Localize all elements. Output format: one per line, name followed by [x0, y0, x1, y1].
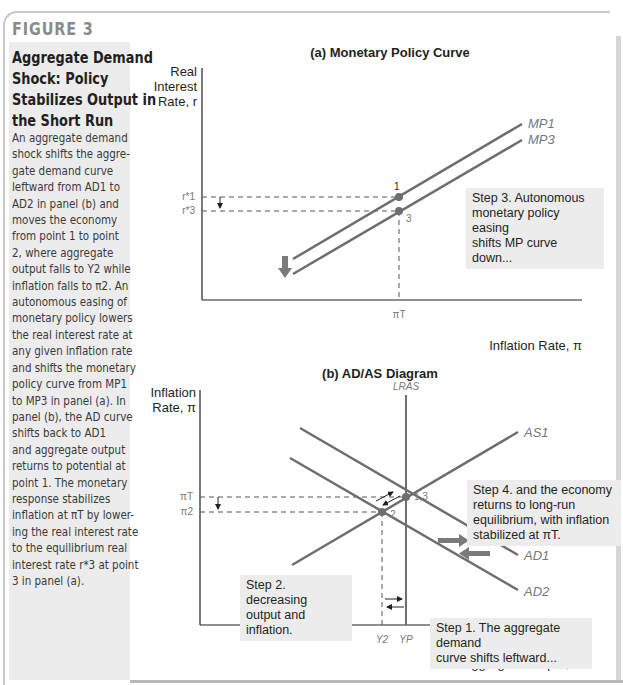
panel-a-xtick-piT: πT [392, 309, 405, 320]
svg-text:Rate, π: Rate, π [152, 400, 196, 415]
mp3-label: MP3 [528, 132, 556, 147]
svg-text:Inflation: Inflation [150, 385, 196, 400]
svg-text:Interest: Interest [154, 79, 198, 94]
step2-annotation: Step 2. decreasing output and inflation. [240, 575, 352, 641]
panel-a-ylabel: Real Interest Rate, r [154, 64, 198, 109]
svg-text:Real: Real [170, 64, 197, 79]
panel-b-title: (b) AD/AS Diagram [322, 366, 438, 381]
lras-label: LRAS [393, 381, 419, 392]
panel-b-xtick-y2: Y2 [376, 634, 389, 645]
panel-a-ytick-r1: r*1 [182, 191, 195, 202]
point-1 [395, 193, 403, 201]
svg-text:1,3: 1,3 [414, 491, 428, 502]
point-2 [378, 508, 386, 516]
panel-b-xtick-yp: YP [399, 634, 413, 645]
panel-b-ytick-piT: πT [180, 491, 193, 502]
svg-text:3: 3 [406, 213, 412, 224]
step4-annotation: Step 4. and the economy returns to long-… [467, 480, 621, 546]
point-1-3 [402, 493, 410, 501]
step1-annotation: Step 1. The aggregate demand curve shift… [430, 618, 592, 669]
svg-text:Rate, r: Rate, r [158, 94, 198, 109]
as1-label: AS1 [523, 425, 549, 440]
mp1-label: MP1 [528, 116, 555, 131]
panel-b-ytick-pi2: π2 [181, 506, 194, 517]
ad2-label: AD2 [523, 584, 550, 599]
step3-annotation: Step 3. Autonomous monetary policy easin… [466, 188, 604, 269]
svg-text:1: 1 [394, 181, 400, 192]
panel-a-xlabel: Inflation Rate, π [489, 338, 582, 353]
panel-b-ylabel: Inflation Rate, π [150, 385, 196, 415]
svg-text:2: 2 [390, 509, 396, 520]
panel-a-ytick-r3: r*3 [182, 205, 195, 216]
panel-a-title: (a) Monetary Policy Curve [310, 45, 470, 60]
point-3 [395, 207, 403, 215]
ad1-label: AD1 [523, 548, 549, 563]
